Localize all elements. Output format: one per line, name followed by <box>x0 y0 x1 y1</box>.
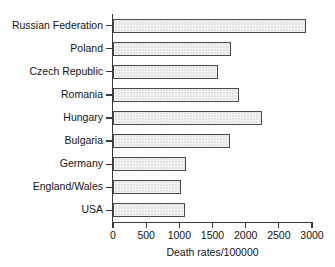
x-tick <box>179 222 180 228</box>
y-tick <box>106 94 113 95</box>
x-axis-tick-label: 2000 <box>234 230 257 241</box>
y-axis-tick-label: Bulgaria <box>64 135 103 146</box>
y-tick <box>106 71 113 72</box>
y-tick <box>106 210 113 211</box>
bar-row <box>113 83 312 106</box>
bar-row <box>113 14 312 37</box>
y-axis-tick-label: Czech Republic <box>29 66 103 77</box>
bar-chart: Russian FederationPolandCzech RepublicRo… <box>0 0 335 267</box>
bar <box>113 157 186 171</box>
x-tick <box>311 222 312 228</box>
y-axis-tick-label: Romania <box>61 89 103 100</box>
x-axis-tick-label: 1500 <box>201 230 224 241</box>
bar <box>113 180 181 194</box>
bar-row <box>113 106 312 129</box>
x-axis-tick-label: 3000 <box>300 230 323 241</box>
bar-row <box>113 176 312 199</box>
x-tick <box>212 222 213 228</box>
y-tick <box>106 48 113 49</box>
bar <box>113 203 185 217</box>
bar-row <box>113 60 312 83</box>
x-axis-tick-label: 2500 <box>267 230 290 241</box>
x-axis-title: Death rates/100000 <box>113 246 312 258</box>
x-axis-tick-label: 1000 <box>168 230 191 241</box>
y-axis-tick-label: Russian Federation <box>12 20 103 31</box>
y-axis-tick-label: Poland <box>70 43 103 54</box>
x-axis-tick-label: 0 <box>110 230 116 241</box>
y-axis-tick-label: USA <box>81 204 103 215</box>
x-tick <box>245 222 246 228</box>
y-axis-tick-label: Germany <box>60 158 103 169</box>
bar-row <box>113 37 312 60</box>
y-tick <box>106 164 113 165</box>
bar-row <box>113 153 312 176</box>
y-axis-tick-label: England/Wales <box>33 181 103 192</box>
bar <box>113 111 262 125</box>
bar <box>113 65 218 79</box>
y-tick <box>106 187 113 188</box>
bar-row <box>113 130 312 153</box>
y-axis-tick-label: Hungary <box>63 112 103 123</box>
x-axis-tick-label: 500 <box>137 230 155 241</box>
x-tick <box>112 222 113 228</box>
bar <box>113 19 306 33</box>
bar <box>113 42 231 56</box>
bar <box>113 134 230 148</box>
x-tick <box>146 222 147 228</box>
x-tick <box>278 222 279 228</box>
y-tick <box>106 117 113 118</box>
y-tick <box>106 25 113 26</box>
bar <box>113 88 239 102</box>
y-tick <box>106 140 113 141</box>
bar-row <box>113 199 312 222</box>
